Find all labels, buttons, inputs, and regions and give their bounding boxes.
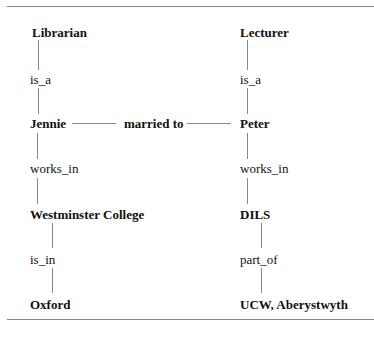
edge-line (38, 40, 39, 70)
edge-line (247, 40, 248, 70)
edge-line (187, 123, 231, 124)
relation-works-in-right: works_in (240, 162, 288, 176)
relation-married-to: married to (124, 117, 184, 131)
node-westminster-college: Westminster College (30, 208, 144, 222)
relation-works-in-left: works_in (30, 162, 78, 176)
edge-line (261, 223, 262, 248)
node-librarian: Librarian (32, 26, 87, 40)
node-lecturer: Lecturer (240, 26, 289, 40)
edge-line (247, 133, 248, 159)
edge-line (52, 223, 53, 248)
bottom-rule (7, 319, 374, 320)
edge-line (38, 88, 39, 114)
edge-line (52, 268, 53, 293)
node-jennie: Jennie (30, 117, 66, 131)
node-oxford: Oxford (30, 298, 70, 312)
edge-line (247, 178, 248, 204)
edge-line (37, 178, 38, 204)
top-rule (7, 6, 374, 7)
relation-is-in: is_in (30, 253, 55, 267)
node-ucw-aberystwyth: UCW, Aberystwyth (240, 298, 348, 312)
edge-line (72, 123, 116, 124)
node-peter: Peter (240, 117, 270, 131)
relation-is-a-right: is_a (240, 73, 261, 87)
relation-is-a-left: is_a (30, 73, 51, 87)
semantic-network-diagram: Librarian is_a Jennie works_in Westminst… (0, 0, 374, 343)
relation-part-of: part_of (240, 253, 278, 267)
edge-line (261, 268, 262, 293)
edge-line (37, 133, 38, 159)
edge-line (247, 88, 248, 114)
node-dils: DILS (240, 208, 270, 222)
